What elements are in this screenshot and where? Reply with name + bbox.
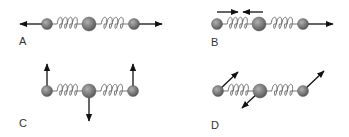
outer-atom <box>42 19 53 30</box>
panel-c <box>42 64 139 121</box>
molecule-vibration-diagram <box>0 0 349 137</box>
spring-icon <box>265 17 299 28</box>
spring-icon <box>52 84 84 95</box>
panel-a <box>20 17 162 31</box>
outer-atom <box>42 86 53 97</box>
spring-icon <box>52 17 84 28</box>
outer-atom <box>212 19 223 30</box>
panel-d <box>213 71 325 108</box>
panel-b <box>212 12 334 31</box>
spring-icon <box>223 84 255 95</box>
central-atom <box>82 84 96 98</box>
outer-atom <box>129 19 140 30</box>
spring-icon <box>95 17 130 28</box>
central-atom <box>82 17 96 31</box>
outer-atom <box>298 86 309 97</box>
panel-label-d: D <box>211 120 219 131</box>
panel-label-c: C <box>19 118 27 129</box>
central-atom <box>253 84 267 98</box>
spring-icon <box>266 84 299 95</box>
outer-atom <box>213 86 224 97</box>
spring-icon <box>95 84 129 95</box>
panel-label-a: A <box>19 36 26 47</box>
spring-icon <box>222 17 254 28</box>
central-atom <box>252 17 266 31</box>
outer-atom <box>128 86 139 97</box>
panel-label-b: B <box>211 37 218 48</box>
outer-atom <box>298 19 309 30</box>
